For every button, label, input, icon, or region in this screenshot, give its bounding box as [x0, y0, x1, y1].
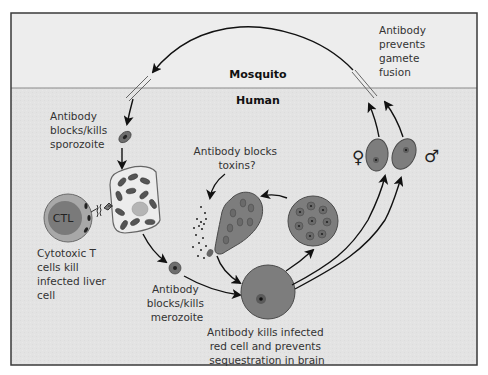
infected-liver-cell [110, 166, 160, 233]
merozoite-label: Antibody blocks/kills merozoite [147, 283, 208, 323]
female-symbol: ♀ [352, 147, 364, 167]
schizont-cell [288, 196, 338, 246]
human-label: Human [236, 94, 280, 107]
ctl-cell: CTL [44, 194, 92, 242]
red-cell-label: Antibody kills infected red cell and pre… [207, 326, 327, 366]
mosquito-label: Mosquito [229, 68, 287, 81]
malaria-immunity-diagram: Mosquito Human Antibody prevents gamete … [0, 0, 488, 375]
infected-red-cell [241, 265, 295, 319]
ctl-label: CTL [53, 212, 74, 225]
male-symbol: ♂ [424, 146, 439, 166]
merozoite-cell [169, 262, 181, 274]
liver-cell-nucleus [132, 202, 148, 216]
